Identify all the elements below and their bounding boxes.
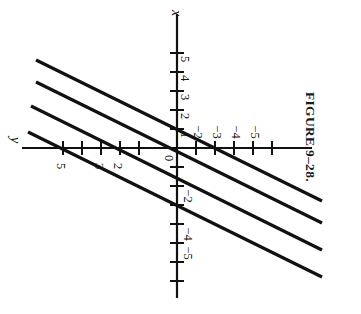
tick-label: −5 [249,125,261,138]
tick-label: −5 [182,246,194,259]
tick-label: 3 [179,94,191,100]
tick-label: 5 [55,163,67,169]
tick-label: −4 [230,125,242,138]
tick-label: 2 [112,163,124,169]
x-axis-label: x [169,10,183,16]
tick-label: 1 [179,132,191,138]
tick-label: −3 [211,125,223,138]
y-axis-label: y [8,137,22,143]
tick-label: −4 [182,227,194,240]
plot-line-4 [28,132,322,277]
tick-label: 2 [179,113,191,119]
tick-label: −2 [182,189,194,202]
figure-container: 5 4 3 2 1 0 −2 −4 −5 5 3 2 −2 −3 −4 −5 x… [0,0,361,314]
plotted-lines [28,60,322,277]
figure-caption: FIGURE 9–28. [296,92,318,212]
tick-label: 5 [179,56,191,62]
origin-label: 0 [163,155,175,161]
tick-label: 4 [179,75,191,81]
tick-label: 3 [93,163,105,169]
tick-label: −2 [192,125,204,138]
plot-line-2 [36,82,322,223]
